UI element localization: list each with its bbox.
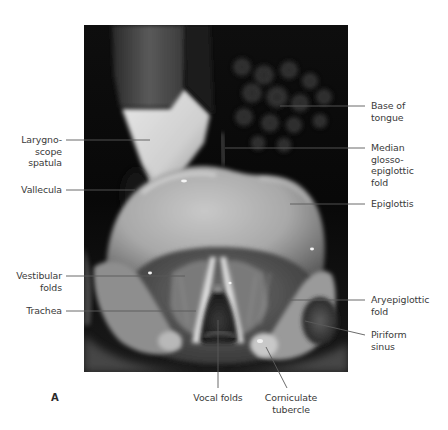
panel-letter: A xyxy=(51,392,59,403)
label-base-of-tongue: Base of tongue xyxy=(371,100,446,123)
label-piriform-sinus: Piriform sinus xyxy=(371,329,446,352)
label-laryngoscope-spatula: Larygno- scope spatula xyxy=(6,134,62,169)
label-vestibular-folds: Vestibular folds xyxy=(6,270,62,293)
label-median-glosso-epiglottic-fold: Median glosso- epiglottic fold xyxy=(371,142,446,188)
label-corniculate-tubercle: Corniculate tubercle xyxy=(256,392,326,415)
label-aryepiglottic-fold: Aryepiglottic fold xyxy=(371,294,446,317)
piriform-sinus-shape xyxy=(302,297,338,345)
label-trachea: Trachea xyxy=(6,305,62,317)
label-vocal-folds: Vocal folds xyxy=(183,392,253,404)
label-vallecula: Vallecula xyxy=(6,184,62,196)
larynx-photograph xyxy=(84,25,348,372)
laryngoscopic-view-figure: Larygno- scope spatula Vallecula Vestibu… xyxy=(0,0,448,430)
corniculate-tubercle-shape xyxy=(250,333,278,357)
label-epiglottis: Epiglottis xyxy=(371,198,446,210)
laryngoscope-blade-dark xyxy=(112,25,186,107)
